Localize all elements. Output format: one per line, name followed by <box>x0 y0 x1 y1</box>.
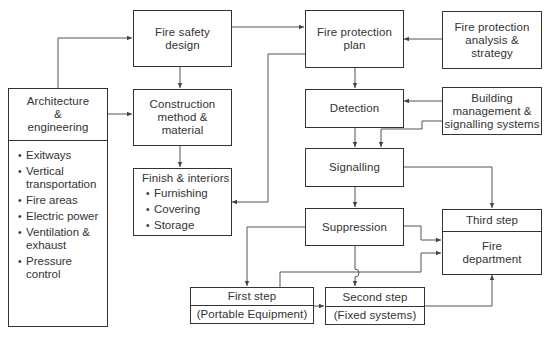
node-header: Third step <box>443 210 541 231</box>
node-label: (Portable Equipment) <box>197 308 308 321</box>
list-item: Covering <box>154 203 231 216</box>
node-label: Fire safety <box>155 26 210 39</box>
node-body: Fire department <box>443 231 541 274</box>
node-label: department <box>462 253 521 266</box>
node-second-step: Second step (Fixed systems) <box>325 287 425 325</box>
node-label: design <box>165 39 200 52</box>
list-item: Storage <box>154 219 231 232</box>
node-header: First step <box>191 288 313 305</box>
node-fire-protection-analysis: Fire protection analysis & strategy <box>442 11 542 69</box>
node-label: First step <box>228 290 276 303</box>
node-detection: Detection <box>305 89 404 128</box>
node-label: Fire protection <box>317 26 392 39</box>
node-label: Architecture <box>27 95 90 108</box>
node-label: Third step <box>466 214 518 227</box>
node-label: method & <box>157 111 207 124</box>
list-item: Fire areas <box>26 194 107 207</box>
node-label: material <box>162 124 204 137</box>
node-label: plan <box>343 39 365 52</box>
node-construction-method: Construction method & material <box>133 89 232 146</box>
node-header: Second step <box>326 288 424 306</box>
node-label: signalling systems <box>444 118 539 131</box>
node-header: Architecture & engineering <box>9 89 107 140</box>
node-label: Second step <box>342 291 407 304</box>
node-fire-safety-design: Fire safety design <box>133 10 232 67</box>
node-fire-protection-plan: Fire protection plan <box>305 10 404 68</box>
node-third-step-fire-department: Third step Fire department <box>442 209 542 275</box>
node-label: management & <box>452 105 531 118</box>
node-label: Suppression <box>322 221 387 234</box>
node-finish-interiors: Finish & interiors Furnishing Covering S… <box>133 168 232 236</box>
node-label: Detection <box>330 102 379 115</box>
list-item: Pressure control <box>26 255 81 281</box>
node-label: analysis & <box>465 34 518 47</box>
node-label: Signalling <box>329 161 380 174</box>
node-label: Finish & interiors <box>142 172 231 185</box>
node-body: (Portable Equipment) <box>191 305 313 323</box>
list-item: Ventilation & exhaust <box>26 226 96 252</box>
node-first-step: First step (Portable Equipment) <box>190 287 314 324</box>
node-label: & <box>54 108 62 121</box>
node-label: engineering <box>27 121 88 134</box>
node-label: Fire protection <box>454 21 529 34</box>
node-label: (Fixed systems) <box>334 309 417 322</box>
node-body: (Fixed systems) <box>326 306 424 324</box>
node-suppression: Suppression <box>305 208 404 246</box>
node-label: Building <box>471 92 513 105</box>
node-label: Fire <box>482 240 502 253</box>
list-item: Exitways <box>26 149 107 162</box>
node-building-management: Building management & signalling systems <box>442 87 542 135</box>
list-item: Vertical transportation <box>26 165 106 191</box>
node-label: Construction <box>150 98 216 111</box>
list-item: Furnishing <box>154 187 231 200</box>
node-signalling: Signalling <box>305 148 404 187</box>
node-label: strategy <box>471 47 513 60</box>
list-item: Electric power <box>26 210 107 223</box>
node-body: Exitways Vertical transportation Fire ar… <box>9 140 107 281</box>
node-architecture-engineering: Architecture & engineering Exitways Vert… <box>8 88 108 327</box>
